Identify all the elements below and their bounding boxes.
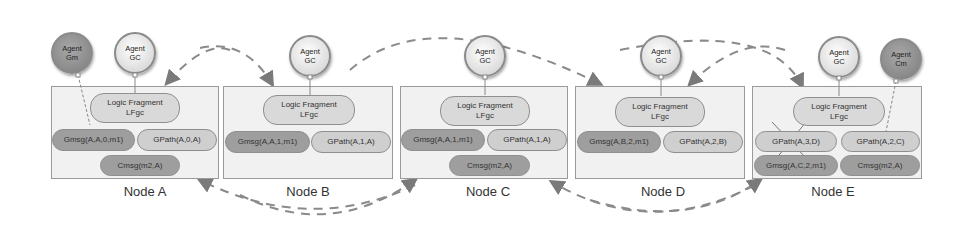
node-a-label: Node A [85,184,205,199]
agent-gc-e: AgentGC [818,36,860,78]
gpath-pill-e-1: GPath(A,3,D) [755,131,837,152]
logic-fragment-c: Logic Fragment LFgc [440,96,530,126]
agent-gc-d: AgentGC [640,35,682,77]
gpath-pill-c: GPath(A,1,A) [487,129,567,151]
gmsg-pill-b: Gmsg(A,A,1,m1) [225,131,310,153]
gpath-pill-b: GPath(A,1,A) [311,131,391,153]
node-d-label: Node D [603,184,723,199]
gmsg-pill-e: Gmsg(A,C,2,m1) [754,155,838,176]
cmsg-pill-a: Cmsg(m2,A) [100,155,180,176]
gpath-pill-e-2: GPath(A,2,C) [841,131,920,152]
agent-gc-c: AgentGC [464,35,506,77]
gpath-pill-d: GPath(A,2,B) [663,131,743,153]
gmsg-pill-c: Gmsg(A,A,1,m1) [401,129,485,151]
gmsg-pill-a: Gmsg(A,A,0,m1) [52,129,135,151]
gmsg-pill-d: Gmsg(A,B,2,m1) [577,131,661,153]
agent-cm: AgentCm [880,38,922,80]
cmsg-pill-c: Cmsg(m2,A) [449,155,530,176]
agent-gm: AgentGm [51,32,93,74]
node-c-label: Node C [428,184,548,199]
node-b-label: Node B [248,184,368,199]
logic-fragment-d: Logic Fragment LFgc [615,97,705,127]
agent-gc-b: AgentGC [289,35,331,77]
agent-gc-a: AgentGC [114,32,156,74]
logic-fragment-b: Logic Fragment LFgc [263,95,355,125]
logic-fragment-e: Logic Fragment LFgc [793,97,885,126]
cmsg-pill-e: Cmsg(m2,A) [840,155,920,176]
logic-fragment-a: Logic Fragment LFgc [90,93,180,123]
gpath-pill-a: GPath(A,0,A) [137,129,217,151]
node-e-label: Node E [773,184,893,199]
